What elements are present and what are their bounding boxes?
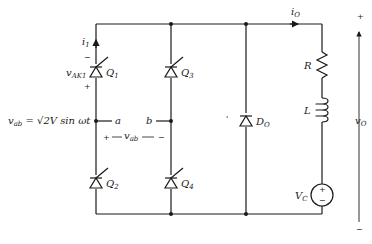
source-equation: vab = √2V sin ωt: [8, 115, 91, 128]
inductor-label: L: [303, 105, 311, 116]
diode-do: [240, 113, 252, 127]
stray-mark: ': [226, 114, 228, 123]
svg-text:vab: vab: [124, 130, 139, 143]
q3-label: Q3: [181, 67, 194, 80]
i1-label: i1: [82, 36, 90, 49]
svg-text:−: −: [158, 133, 165, 142]
vak1-minus-sign: −: [84, 53, 91, 62]
vc-label: VC: [295, 190, 308, 203]
vo-label: vO: [355, 115, 367, 128]
circuit-diagram: + − + − vO iO i1 − vAK1 + Q1 Q3 Q2 Q4 va…: [0, 0, 372, 244]
io-label: iO: [291, 6, 300, 19]
vab-polarity-label: + vab −: [103, 130, 165, 143]
q4-label: Q4: [181, 178, 194, 191]
do-label: DO: [255, 116, 270, 129]
svg-text:+: +: [103, 133, 110, 142]
q2-label: Q2: [106, 178, 119, 191]
vo-plus-sign: +: [357, 12, 364, 21]
junction-dot: [169, 22, 173, 26]
junction-dot: [244, 22, 248, 26]
inductor-l: [316, 98, 328, 122]
node-a-label: a: [115, 115, 121, 126]
junction-dot: [244, 212, 248, 216]
junction-dot: [169, 212, 173, 216]
circuit-svg: + − + − vO iO i1 − vAK1 + Q1 Q3 Q2 Q4 va…: [0, 0, 372, 244]
node-b-label: b: [146, 115, 152, 126]
resistor-label: R: [303, 60, 312, 71]
vak1-label: vAK1: [66, 67, 86, 80]
vo-minus-sign: −: [356, 225, 363, 234]
vc-minus-sign: −: [319, 196, 326, 205]
vc-plus-sign: +: [319, 185, 326, 194]
vak1-plus-sign: +: [84, 82, 91, 91]
resistor-r: [317, 52, 327, 78]
q1-label: Q1: [106, 67, 119, 80]
